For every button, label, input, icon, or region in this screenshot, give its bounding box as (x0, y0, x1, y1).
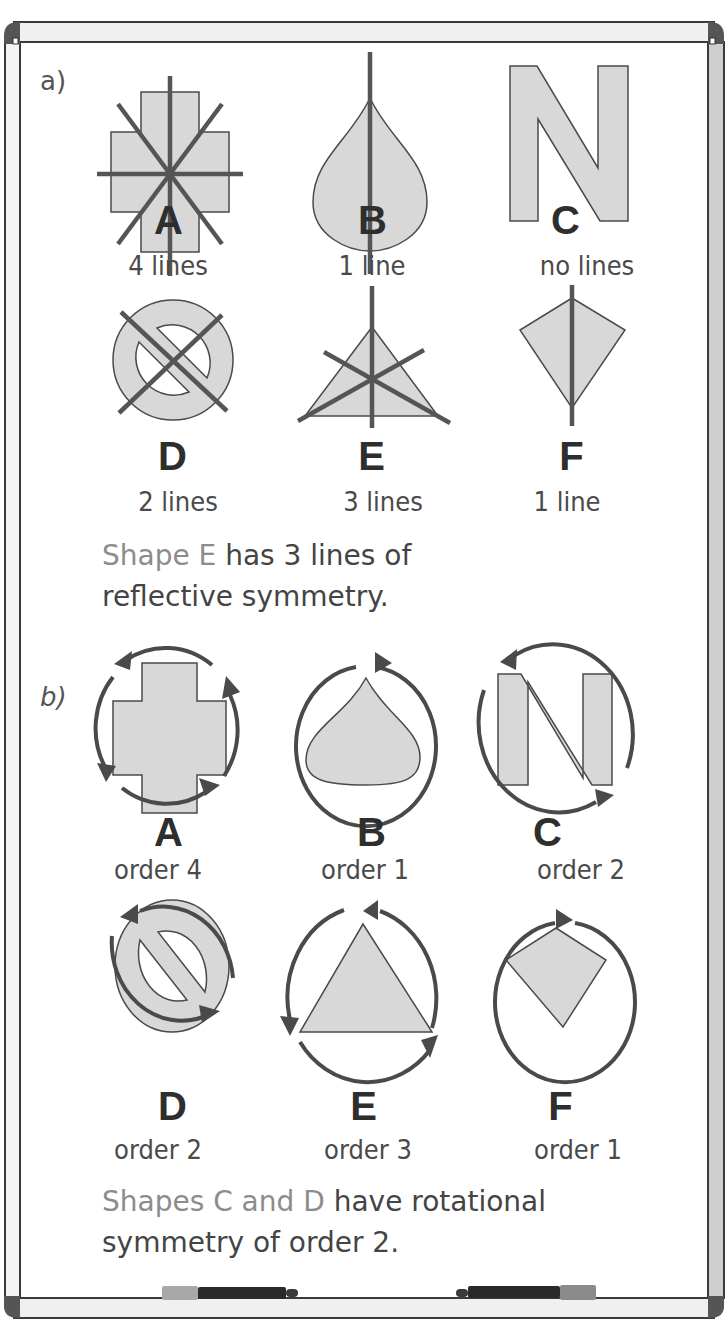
part-b-caption-b: order 1 (321, 856, 409, 883)
part-a-caption-a: 4 lines (128, 252, 208, 279)
rotation-arrow (515, 644, 633, 768)
part-b-letter-e: E (350, 1086, 376, 1126)
part-a-letter-d: D (158, 436, 186, 476)
part-a-caption-e: 3 lines (343, 488, 423, 515)
part-a-letter-a: A (154, 200, 182, 240)
shape-f-kite-rotation (495, 909, 635, 1082)
shape-d-ring-reflection (113, 300, 233, 420)
part-b-letter-b: B (357, 812, 385, 852)
part-a-conclusion: Shape E has 3 lines of reflective symmet… (102, 536, 411, 617)
part-a-letter-e: E (358, 436, 384, 476)
part-a-caption-d: 2 lines (138, 488, 218, 515)
part-b-conclusion-rest: have rotational (325, 1185, 546, 1218)
part-a-conclusion-rest: has 3 lines of (216, 539, 411, 572)
part-b-caption-a: order 4 (114, 856, 202, 883)
part-a-conclusion-highlight: Shape E (102, 539, 216, 572)
part-b-caption-c: order 2 (537, 856, 625, 883)
shape-f-kite-reflection (520, 285, 625, 426)
part-b-caption-e: order 3 (324, 1136, 412, 1163)
shape-a-cross-reflection (97, 76, 243, 276)
shape-b-teardrop-rotation (296, 652, 436, 826)
part-a-caption-f: 1 line (533, 488, 600, 515)
part-a-letter-f: F (559, 436, 582, 476)
part-a-caption-b: 1 line (338, 252, 405, 279)
rotation-arrow (300, 1042, 430, 1082)
rotation-arrow (96, 677, 113, 767)
whiteboard: a) .fill { fill: #d8d8d8; stroke: #4a4a4… (0, 0, 728, 1332)
part-b-conclusion: Shapes C and D have rotational symmetry … (102, 1182, 546, 1263)
part-b-conclusion-line2: symmetry of order 2. (102, 1226, 399, 1259)
part-b-letter-f: F (548, 1086, 571, 1126)
part-b-caption-f: order 1 (534, 1136, 622, 1163)
part-a-conclusion-line2: reflective symmetry. (102, 580, 389, 613)
rotation-arrow (479, 690, 596, 812)
part-a-caption-c: no lines (540, 252, 634, 279)
shape-a-cross-rotation (96, 648, 240, 813)
marker-pen-left (162, 1286, 298, 1300)
part-a-letter-c: C (551, 200, 579, 240)
part-b-conclusion-highlight: Shapes C and D (102, 1185, 325, 1218)
shape-e-triangle-rotation (280, 900, 438, 1082)
shape-c-letter-n-rotation (479, 644, 633, 812)
part-b-caption-d: order 2 (114, 1136, 202, 1163)
marker-pens (0, 1280, 728, 1320)
shape-d-ring-rotation (112, 900, 233, 1032)
part-a-letter-b: B (358, 200, 386, 240)
shape-e-triangle-reflection (298, 286, 450, 428)
part-b-letter-d: D (158, 1086, 186, 1126)
part-b-letter-a: A (154, 812, 182, 852)
part-b-letter-c: C (533, 812, 561, 852)
marker-pen-right (456, 1285, 596, 1300)
